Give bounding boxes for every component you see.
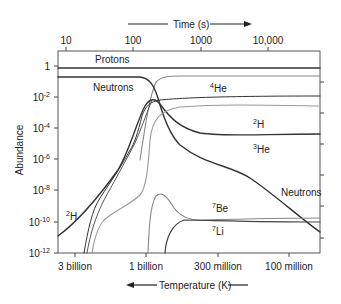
bottom-axis-label: Temperature (K) (159, 280, 231, 291)
nucleosynthesis-chart: Time (s) 10 100 1000 10,000 1 10-2 (0, 0, 341, 304)
arrow-right-icon (244, 21, 252, 27)
label-7be: 7Be (212, 202, 229, 214)
bottom-axis-ticks (75, 253, 289, 257)
top-axis-title: Time (s) (128, 19, 252, 30)
label-2h: 2H (253, 118, 264, 130)
y-tick-1e-2: 10-2 (33, 91, 50, 103)
label-4he: 4He (210, 82, 227, 94)
series-3he-rising (87, 100, 152, 253)
y-tick-1e-6: 10-6 (33, 153, 50, 165)
y-tick-1e-8: 10-8 (33, 184, 50, 196)
top-tick-10: 10 (60, 35, 72, 46)
series-7li (165, 220, 320, 253)
y-tick-1e-12: 10-12 (29, 247, 50, 259)
y-axis-labels: 1 10-2 10-4 10-6 10-8 10-10 10-12 (29, 61, 51, 259)
y-tick-1: 1 (44, 61, 50, 72)
bottom-axis-labels: 3 billion 1 billion 300 million 100 mill… (58, 261, 313, 272)
series-7be (148, 194, 320, 253)
top-axis-label: Time (s) (173, 19, 209, 30)
y-tick-1e-4: 10-4 (33, 122, 50, 134)
label-neutrons: Neutrons (93, 82, 134, 93)
bottom-axis-title: Temperature (K) (126, 280, 248, 291)
label-protons: Protons (95, 54, 129, 65)
series-neutrons (58, 77, 320, 232)
series-3he-light (92, 105, 320, 253)
series-4he (140, 76, 320, 160)
label-3he: 3He (253, 143, 270, 155)
label-7li: 7Li (212, 225, 224, 237)
bottom-tick-100-million: 100 million (265, 261, 313, 272)
bottom-tick-3-billion: 3 billion (58, 261, 92, 272)
series-3he (84, 96, 320, 253)
top-tick-100: 100 (125, 35, 142, 46)
bottom-tick-1-billion: 1 billion (129, 261, 163, 272)
top-tick-1000: 1000 (190, 35, 213, 46)
y-axis-ticks-right (320, 82, 324, 238)
label-neutrons-late: Neutrons (281, 187, 322, 198)
y-axis-label: Abundance (14, 124, 25, 175)
top-tick-10000: 10,000 (253, 35, 284, 46)
bottom-tick-300-million: 300 million (194, 261, 242, 272)
y-tick-1e-10: 10-10 (29, 216, 50, 228)
top-axis-ticks: 10 100 1000 10,000 (60, 35, 283, 51)
y-axis-ticks (54, 66, 58, 253)
series-labels: Protons Neutrons 4He 2H 3He Neutrons 7Be… (66, 54, 322, 237)
label-2h-early: 2H (66, 210, 77, 222)
